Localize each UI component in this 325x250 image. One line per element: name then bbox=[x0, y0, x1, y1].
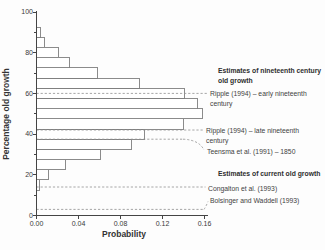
y-tick-40: 40 bbox=[25, 130, 33, 137]
x-tick-016: 0.16 bbox=[198, 220, 212, 227]
old-growth-probability-figure: 0 20 40 60 80 100 0.00 0.04 0.08 0.12 0.… bbox=[0, 0, 325, 250]
histogram-bar bbox=[37, 139, 132, 149]
histogram-bar bbox=[37, 170, 49, 180]
histogram-bar bbox=[37, 109, 203, 119]
histogram-bar bbox=[37, 58, 70, 68]
x-tick-000: 0.00 bbox=[30, 220, 44, 227]
histogram-chart: 0 20 40 60 80 100 0.00 0.04 0.08 0.12 0.… bbox=[0, 0, 325, 250]
x-axis-title: Probability bbox=[102, 229, 146, 239]
y-tick-20: 20 bbox=[25, 171, 33, 178]
histogram-bar bbox=[37, 48, 59, 58]
y-axis-title: Percentage old growth bbox=[1, 68, 11, 160]
histogram-bar bbox=[37, 78, 140, 88]
estimate-connector-bolsinger bbox=[204, 202, 208, 210]
y-tick-100: 100 bbox=[21, 8, 33, 15]
histogram-bar bbox=[37, 160, 66, 170]
current-old-growth-header: Estimates of current old growth bbox=[218, 170, 320, 178]
histogram-bar bbox=[37, 27, 41, 37]
annotation-text-block: Estimates of nineteenth century old grow… bbox=[206, 67, 321, 205]
y-axis-tick-labels: 0 20 40 60 80 100 bbox=[21, 8, 33, 219]
y-tick-0: 0 bbox=[29, 212, 33, 219]
histogram-bar bbox=[37, 149, 101, 159]
ripple-late-label-line1: Ripple (1994) – late nineteenth bbox=[206, 127, 299, 135]
nineteenth-century-header-line2: old growth bbox=[218, 77, 253, 85]
ripple-late-label-line2: century bbox=[206, 137, 229, 145]
x-tick-008: 0.08 bbox=[114, 220, 128, 227]
histogram-bar bbox=[37, 129, 145, 139]
x-axis-tick-labels: 0.00 0.04 0.08 0.12 0.16 bbox=[30, 220, 212, 227]
x-tick-012: 0.12 bbox=[156, 220, 170, 227]
ripple-early-label-line1: Ripple (1994) – early nineteenth bbox=[210, 90, 307, 98]
congalton-label: Congalton et al. (1993) bbox=[208, 185, 277, 193]
histogram-bar bbox=[37, 68, 98, 78]
histogram-bar bbox=[37, 98, 198, 108]
histogram-bar bbox=[37, 37, 45, 47]
nineteenth-century-header-line1: Estimates of nineteenth century bbox=[218, 67, 321, 75]
y-tick-80: 80 bbox=[25, 49, 33, 56]
bolsinger-label: Bolsinger and Waddell (1993) bbox=[210, 197, 299, 205]
histogram-bar bbox=[37, 119, 184, 129]
ripple-early-label-line2: century bbox=[210, 100, 233, 108]
y-tick-60: 60 bbox=[25, 90, 33, 97]
chart-generated-layer bbox=[33, 11, 209, 219]
estimate-connector-teensma bbox=[183, 139, 204, 150]
x-tick-004: 0.04 bbox=[72, 220, 86, 227]
teensma-label: Teensma et al. (1991) – 1850 bbox=[207, 148, 296, 156]
